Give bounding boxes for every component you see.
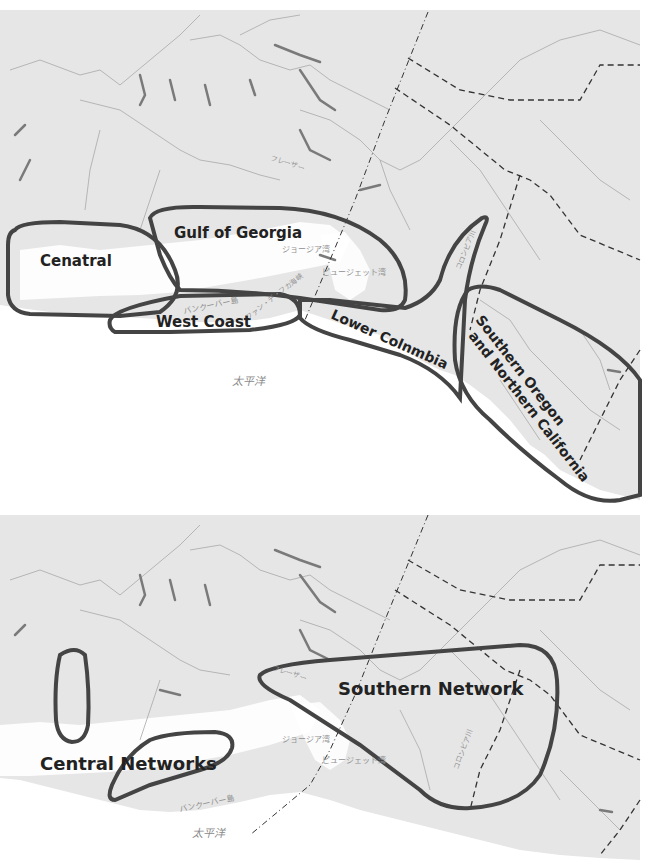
- place-label-pacific-ocean: 太平洋: [232, 375, 267, 388]
- region-label-gulf-of-georgia: Gulf of Georgia: [174, 224, 302, 242]
- region-label-central-networks: Central Networks: [40, 753, 217, 774]
- bottom-map: Southern Network Central Networks フレーザー …: [0, 510, 650, 868]
- place-label-georgia-strait: ジョージア湾: [282, 244, 330, 254]
- place-label-georgia-strait: ジョージア湾: [282, 734, 330, 744]
- place-label-pacific-ocean: 太平洋: [192, 827, 227, 840]
- region-label-cenatral: Cenatral: [40, 252, 112, 270]
- top-map-canvas: Cenatral Gulf of Georgia West Coast Lowe…: [0, 0, 650, 510]
- region-label-southern-network: Southern Network: [338, 678, 524, 699]
- top-map: Cenatral Gulf of Georgia West Coast Lowe…: [0, 0, 650, 510]
- place-label-puget-sound: ピュージェット湾: [322, 267, 386, 277]
- bottom-map-canvas: Southern Network Central Networks フレーザー …: [0, 510, 650, 868]
- place-label-puget-sound: ピュージェット湾: [322, 755, 386, 765]
- region-label-west-coast: West Coast: [156, 313, 251, 331]
